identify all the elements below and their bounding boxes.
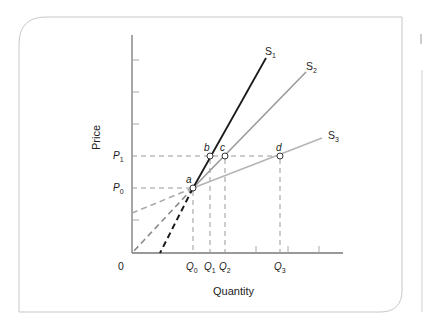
point-c xyxy=(222,153,228,159)
point-b-label: b xyxy=(204,142,210,153)
figure-canvas: a b c d S1 S2 S3 P1 P0 Q0 Q1 Q2 Q3 0 Qua… xyxy=(0,0,424,332)
point-a-label: a xyxy=(186,174,192,185)
origin-label: 0 xyxy=(118,260,124,272)
p0-label: P0 xyxy=(113,182,124,195)
point-b xyxy=(207,153,213,159)
s2-label: S2 xyxy=(306,60,317,74)
y-axis-title: Price xyxy=(90,125,102,150)
q0-label: Q0 xyxy=(186,261,198,274)
q1-label: Q1 xyxy=(204,261,216,274)
s1-curve xyxy=(193,58,266,188)
q3-label: Q3 xyxy=(274,261,286,274)
s3-label: S3 xyxy=(328,129,339,143)
point-d xyxy=(277,153,283,159)
p1-label: P1 xyxy=(113,150,124,163)
s2-extension xyxy=(133,188,193,252)
x-ticks xyxy=(256,246,319,253)
x-axis-title: Quantity xyxy=(213,285,254,297)
s3-extension xyxy=(132,188,193,213)
point-d-label: d xyxy=(276,142,282,153)
q2-label: Q2 xyxy=(219,261,231,274)
s1-extension xyxy=(160,188,193,253)
point-c-label: c xyxy=(220,142,225,153)
point-a xyxy=(190,185,196,191)
y-ticks xyxy=(132,60,139,220)
s1-label: S1 xyxy=(265,45,276,59)
s3-curve xyxy=(193,138,322,188)
s2-curve xyxy=(193,72,306,188)
